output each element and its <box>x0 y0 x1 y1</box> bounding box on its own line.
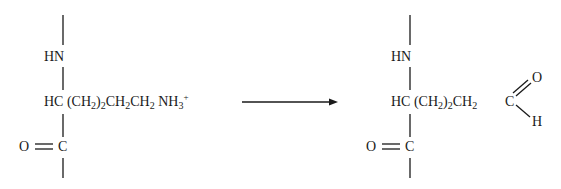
reactant-alpha-carbon: HC (CH2)2CH2CH2 NH3+ <box>44 95 188 110</box>
product-alpha-carbon: HC (CH2)2CH2 <box>391 95 477 110</box>
aldehyde-o: O <box>532 71 542 85</box>
product-side-chain: (CH2)2CH2 <box>414 94 477 109</box>
reactant-hc: HC <box>44 94 63 109</box>
reactant-side-chain: (CH2)2CH2CH2 NH3+ <box>67 94 189 109</box>
product-hc: HC <box>391 94 410 109</box>
aldehyde-h: H <box>532 115 542 129</box>
product-carbonyl-o: O <box>366 140 376 154</box>
reactant-carbonyl-c: C <box>58 140 67 154</box>
aldehyde-c: C <box>505 95 514 109</box>
arrow-head <box>329 99 338 106</box>
reactant-hn: HN <box>44 50 64 64</box>
reactant-carbonyl-o: O <box>19 140 29 154</box>
product-carbonyl-c: C <box>405 140 414 154</box>
product-hn: HN <box>391 50 411 64</box>
